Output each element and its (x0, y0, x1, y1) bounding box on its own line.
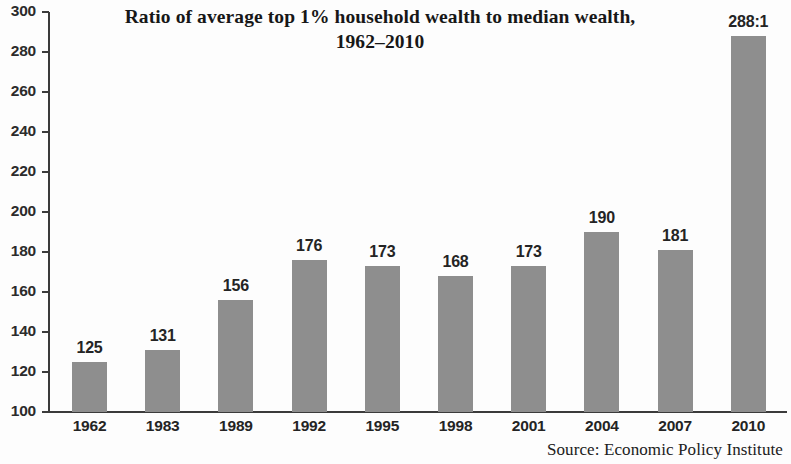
y-axis-tick-mark (42, 131, 49, 133)
bar-value-label: 156 (196, 277, 276, 295)
y-axis-tick-mark (42, 411, 49, 413)
y-axis-tick-mark (42, 371, 49, 373)
bar (511, 266, 546, 412)
x-axis-tick-label: 1962 (50, 417, 130, 435)
bar (584, 232, 619, 412)
y-axis-tick-label: 300 (0, 2, 36, 20)
bar-value-label: 288:1 (708, 13, 788, 31)
x-axis-tick-label: 1989 (196, 417, 276, 435)
y-axis-tick-label: 140 (0, 322, 36, 340)
y-axis-tick-mark (42, 11, 49, 13)
y-axis-tick-label: 240 (0, 122, 36, 140)
x-axis-tick-label: 2001 (489, 417, 569, 435)
y-axis-tick-label: 260 (0, 82, 36, 100)
bar-value-label: 125 (50, 339, 130, 357)
y-axis-tick-mark (42, 331, 49, 333)
y-axis-tick-label: 100 (0, 402, 36, 420)
y-axis-tick-label: 280 (0, 42, 36, 60)
bar-value-label: 131 (123, 327, 203, 345)
chart-figure: Ratio of average top 1% household wealth… (0, 0, 791, 464)
chart-title-line-1: Ratio of average top 1% household wealth… (125, 6, 636, 27)
bar-value-label: 173 (489, 243, 569, 261)
chart-title: Ratio of average top 1% household wealth… (60, 4, 700, 54)
y-axis-tick-label: 120 (0, 362, 36, 380)
bar-value-label: 181 (635, 227, 715, 245)
y-axis-tick-label: 180 (0, 242, 36, 260)
x-axis-tick-label: 2010 (708, 417, 788, 435)
bar-value-label: 176 (269, 237, 349, 255)
bar-value-label: 173 (342, 243, 422, 261)
bar (292, 260, 327, 412)
bar-value-label: 168 (416, 253, 496, 271)
x-axis-tick-label: 1992 (269, 417, 349, 435)
source-note: Source: Economic Policy Institute (547, 440, 783, 460)
y-axis-tick-mark (42, 291, 49, 293)
bar (145, 350, 180, 412)
bar (658, 250, 693, 412)
y-axis-tick-mark (42, 251, 49, 253)
bar (218, 300, 253, 412)
x-axis-tick-label: 1983 (123, 417, 203, 435)
x-axis-tick-label: 2004 (562, 417, 642, 435)
bar-value-label: 190 (562, 209, 642, 227)
y-axis-tick-mark (42, 91, 49, 93)
bar (72, 362, 107, 412)
bar (365, 266, 400, 412)
bar (731, 36, 766, 412)
bar (438, 276, 473, 412)
y-axis-tick-label: 220 (0, 162, 36, 180)
y-axis-tick-mark (42, 211, 49, 213)
y-axis-tick-mark (42, 51, 49, 53)
x-axis-tick-label: 2007 (635, 417, 715, 435)
chart-title-line-2: 1962–2010 (60, 29, 700, 54)
y-axis-tick-mark (42, 171, 49, 173)
y-axis-tick-label: 200 (0, 202, 36, 220)
y-axis-tick-label: 160 (0, 282, 36, 300)
x-axis-tick-label: 1998 (416, 417, 496, 435)
x-axis-tick-label: 1995 (342, 417, 422, 435)
